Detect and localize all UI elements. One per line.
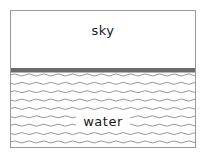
water-wave-pattern-icon [11,73,195,147]
diagram-root: sky water [0,0,207,158]
sky-label: sky [11,23,195,38]
diagram-frame: sky water [10,10,196,148]
sky-region: sky [11,11,195,68]
water-region: water [11,73,195,147]
